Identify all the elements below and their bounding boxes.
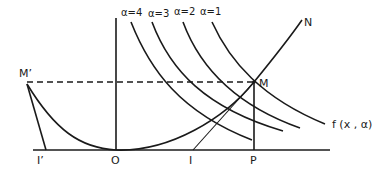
segment-M-prime-I-prime xyxy=(27,84,46,150)
label-f-x-alpha: f (x , α) xyxy=(332,119,372,130)
label-O: O xyxy=(111,155,120,166)
point-M xyxy=(252,80,256,84)
diagram-canvas xyxy=(0,0,388,175)
label-I-prime: I’ xyxy=(37,155,44,166)
label-alpha-3: α=3 xyxy=(148,9,169,19)
label-M-prime: M’ xyxy=(19,68,32,79)
label-alpha-1: α=1 xyxy=(200,7,221,17)
label-M: M xyxy=(259,78,269,89)
label-I: I xyxy=(189,155,192,166)
label-P: P xyxy=(250,155,257,166)
label-alpha-2: α=2 xyxy=(174,7,195,17)
label-N: N xyxy=(304,17,312,28)
curve-alpha-2 xyxy=(183,22,300,128)
label-alpha-4: α=4 xyxy=(121,8,142,18)
